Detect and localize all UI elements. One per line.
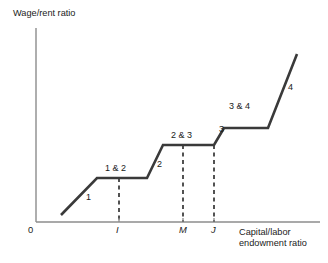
- annotation-plateau-3-4: 3 & 4: [229, 101, 250, 112]
- annotation-segment-2: 2: [157, 159, 162, 170]
- chart-container: Wage/rent ratio Capital/labor endowment …: [0, 0, 328, 263]
- annotation-plateau-2-3: 2 & 3: [171, 130, 192, 141]
- y-axis-title: Wage/rent ratio: [13, 8, 75, 19]
- axis-origin-label: 0: [28, 224, 33, 235]
- annotation-plateau-1-2: 1 & 2: [105, 163, 126, 174]
- x-axis-title-line1: Capital/labor: [239, 227, 291, 237]
- x-axis-title-line2: endowment ratio: [239, 238, 307, 249]
- annotation-segment-4: 4: [288, 82, 293, 93]
- x-tick-label-M: M: [179, 224, 187, 235]
- annotation-segment-3: 3: [219, 124, 224, 135]
- x-tick-label-I: I: [116, 224, 119, 235]
- x-axis-title: Capital/labor endowment ratio: [239, 227, 307, 249]
- x-tick-label-J: J: [211, 224, 216, 235]
- chart-plot-area: [0, 0, 328, 263]
- annotation-segment-1: 1: [86, 192, 91, 203]
